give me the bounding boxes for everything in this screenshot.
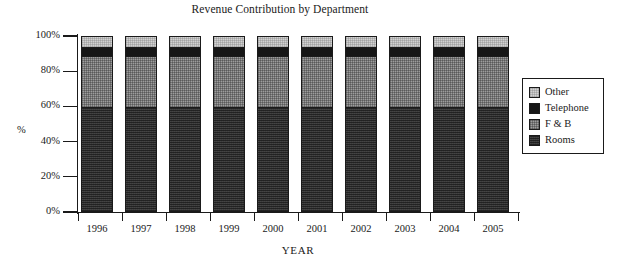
chart-legend: OtherTelephoneF & BRooms bbox=[522, 78, 604, 154]
bar-segment-telephone[interactable] bbox=[82, 47, 112, 56]
legend-label: Other bbox=[545, 87, 569, 98]
bar-segment-other[interactable] bbox=[258, 37, 288, 47]
bar-group[interactable] bbox=[345, 36, 377, 212]
bar-segment-other[interactable] bbox=[214, 37, 244, 47]
y-tick-mark bbox=[63, 71, 78, 72]
bar-segment-fb[interactable] bbox=[478, 56, 508, 106]
stacked-bar[interactable] bbox=[301, 36, 333, 212]
y-tick-mark bbox=[63, 141, 78, 142]
bar-group[interactable] bbox=[169, 36, 201, 212]
bar-segment-fb[interactable] bbox=[170, 56, 200, 106]
y-tick-label: 80% bbox=[10, 65, 60, 76]
legend-swatch-icon bbox=[529, 87, 540, 98]
bar-segment-other[interactable] bbox=[390, 37, 420, 47]
chart-title: Revenue Contribution by Department bbox=[0, 3, 560, 15]
bar-segment-telephone[interactable] bbox=[302, 47, 332, 56]
legend-label: Rooms bbox=[545, 135, 575, 146]
x-tick-mark bbox=[254, 212, 255, 221]
bar-group[interactable] bbox=[257, 36, 289, 212]
y-tick-label: 100% bbox=[10, 30, 60, 41]
legend-swatch-icon bbox=[529, 135, 540, 146]
bar-segment-other[interactable] bbox=[434, 37, 464, 47]
legend-item-other[interactable]: Other bbox=[529, 84, 598, 100]
bar-segment-rooms[interactable] bbox=[258, 107, 288, 211]
x-tick-mark bbox=[210, 212, 211, 221]
y-tick-label: 60% bbox=[10, 100, 60, 111]
stacked-bar[interactable] bbox=[125, 36, 157, 212]
bar-segment-rooms[interactable] bbox=[126, 107, 156, 211]
y-tick-mark bbox=[63, 35, 78, 36]
bar-group[interactable] bbox=[213, 36, 245, 212]
bar-segment-rooms[interactable] bbox=[82, 107, 112, 211]
bar-group[interactable] bbox=[81, 36, 113, 212]
bar-segment-rooms[interactable] bbox=[390, 107, 420, 211]
stacked-bar[interactable] bbox=[81, 36, 113, 212]
stacked-bar[interactable] bbox=[213, 36, 245, 212]
y-axis-title: % bbox=[17, 124, 26, 135]
x-tick-mark bbox=[474, 212, 475, 221]
bar-segment-telephone[interactable] bbox=[346, 47, 376, 56]
legend-swatch-icon bbox=[529, 103, 540, 114]
x-tick-mark bbox=[298, 212, 299, 221]
legend-item-rooms[interactable]: Rooms bbox=[529, 132, 598, 148]
bar-segment-other[interactable] bbox=[346, 37, 376, 47]
y-tick-mark bbox=[63, 106, 78, 107]
bar-segment-fb[interactable] bbox=[346, 56, 376, 106]
x-tick-mark bbox=[386, 212, 387, 221]
bar-segment-fb[interactable] bbox=[258, 56, 288, 106]
bar-segment-telephone[interactable] bbox=[214, 47, 244, 56]
bar-segment-rooms[interactable] bbox=[214, 107, 244, 211]
y-tick-mark bbox=[63, 176, 78, 177]
bar-segment-rooms[interactable] bbox=[170, 107, 200, 211]
bar-segment-telephone[interactable] bbox=[170, 47, 200, 56]
x-tick-mark bbox=[78, 212, 79, 221]
legend-label: F & B bbox=[545, 119, 571, 130]
bar-segment-fb[interactable] bbox=[302, 56, 332, 106]
bar-segment-other[interactable] bbox=[302, 37, 332, 47]
bar-segment-other[interactable] bbox=[82, 37, 112, 47]
bar-group[interactable] bbox=[301, 36, 333, 212]
x-tick-mark bbox=[166, 212, 167, 221]
bar-segment-rooms[interactable] bbox=[302, 107, 332, 211]
y-tick-mark bbox=[63, 211, 78, 212]
stacked-bar[interactable] bbox=[477, 36, 509, 212]
bar-segment-other[interactable] bbox=[478, 37, 508, 47]
y-tick-label: 0% bbox=[10, 206, 60, 217]
bar-segment-other[interactable] bbox=[126, 37, 156, 47]
plot-area bbox=[78, 36, 518, 212]
y-tick-label: 20% bbox=[10, 171, 60, 182]
stacked-bar[interactable] bbox=[169, 36, 201, 212]
bar-group[interactable] bbox=[389, 36, 421, 212]
bar-segment-fb[interactable] bbox=[82, 56, 112, 106]
bar-segment-fb[interactable] bbox=[214, 56, 244, 106]
stacked-bar[interactable] bbox=[257, 36, 289, 212]
legend-item-telephone[interactable]: Telephone bbox=[529, 100, 598, 116]
x-tick-mark bbox=[430, 212, 431, 221]
bar-segment-fb[interactable] bbox=[390, 56, 420, 106]
bar-segment-rooms[interactable] bbox=[478, 107, 508, 211]
stacked-bar[interactable] bbox=[389, 36, 421, 212]
x-tick-mark bbox=[518, 212, 519, 221]
bar-segment-telephone[interactable] bbox=[478, 47, 508, 56]
y-tick-label: 40% bbox=[10, 136, 60, 147]
bar-group[interactable] bbox=[433, 36, 465, 212]
stacked-bar[interactable] bbox=[345, 36, 377, 212]
bar-segment-telephone[interactable] bbox=[258, 47, 288, 56]
legend-item-fb[interactable]: F & B bbox=[529, 116, 598, 132]
bar-segment-telephone[interactable] bbox=[390, 47, 420, 56]
bar-segment-telephone[interactable] bbox=[434, 47, 464, 56]
bar-segment-telephone[interactable] bbox=[126, 47, 156, 56]
bar-segment-rooms[interactable] bbox=[434, 107, 464, 211]
legend-label: Telephone bbox=[545, 103, 589, 114]
legend-swatch-icon bbox=[529, 119, 540, 130]
bar-segment-fb[interactable] bbox=[126, 56, 156, 106]
stacked-bar[interactable] bbox=[433, 36, 465, 212]
bar-segment-fb[interactable] bbox=[434, 56, 464, 106]
x-axis-title: YEAR bbox=[78, 244, 518, 256]
bar-segment-other[interactable] bbox=[170, 37, 200, 47]
bar-group[interactable] bbox=[477, 36, 509, 212]
bar-segment-rooms[interactable] bbox=[346, 107, 376, 211]
bar-group[interactable] bbox=[125, 36, 157, 212]
x-tick-label: 2005 bbox=[466, 223, 520, 234]
x-tick-mark bbox=[342, 212, 343, 221]
